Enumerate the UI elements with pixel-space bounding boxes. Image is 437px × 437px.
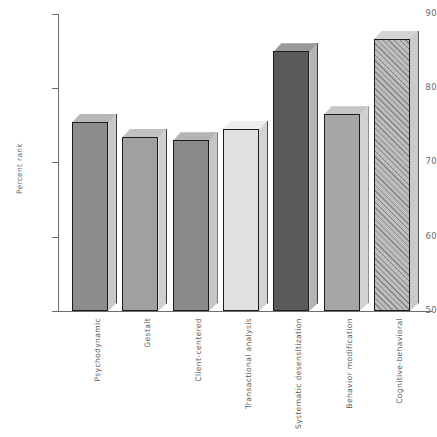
y-axis-title-text: Percent rank <box>15 180 24 194</box>
bar <box>324 106 368 311</box>
bar-side-face <box>108 114 117 311</box>
bar-side-face <box>209 132 218 311</box>
x-axis-tick-label: Psychodynamic <box>94 318 102 382</box>
x-axis-line <box>58 311 432 312</box>
x-axis-tick-label: Gestalt <box>144 318 152 348</box>
bar <box>223 121 267 311</box>
x-axis-tick-label: Client-centered <box>195 318 203 382</box>
bar <box>173 132 217 311</box>
x-axis-tick-label: Behavior modification <box>346 318 354 409</box>
bar-side-face <box>158 129 167 311</box>
x-axis-tick-label: Systematic desensitization <box>295 318 303 429</box>
y-axis-tick <box>52 237 59 238</box>
bar <box>72 114 116 311</box>
bar <box>273 43 317 311</box>
x-axis-tick-label: Transactional analysis <box>245 318 253 409</box>
bar-front-face <box>173 140 209 311</box>
bar-front-face <box>374 39 410 311</box>
bar <box>122 129 166 311</box>
bar-side-face <box>360 106 369 311</box>
bar-front-face <box>324 114 360 311</box>
bar-chart: 90 80 70 60 50 Percent rank Psychodynami… <box>0 0 437 437</box>
x-axis-tick-label: Cognitive-behavioral <box>396 318 404 404</box>
bar-front-face <box>223 129 259 311</box>
y-axis-tick <box>52 14 59 15</box>
bar-front-face <box>72 122 108 311</box>
bar-front-face <box>273 51 309 311</box>
bar-front-face <box>122 137 158 311</box>
bar <box>374 31 418 311</box>
bar-side-face <box>410 31 419 311</box>
y-axis-tick <box>52 162 59 163</box>
bar-side-face <box>309 43 318 311</box>
bar-side-face <box>259 121 268 311</box>
bar-hatch-pattern <box>375 40 409 310</box>
y-axis-tick-label: 90 <box>395 9 437 18</box>
y-axis-tick <box>52 88 59 89</box>
y-axis-title: Percent rank <box>9 94 18 108</box>
